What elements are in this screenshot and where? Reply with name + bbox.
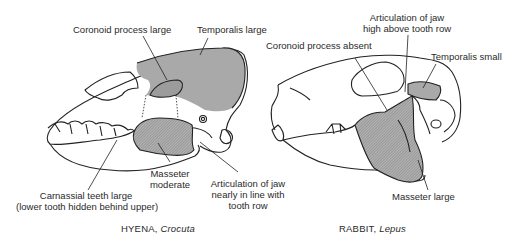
caption-rabbit-genus: Lepus	[379, 223, 406, 234]
label-hyena-articulation-line2: nearly in line with	[207, 189, 289, 200]
label-rabbit-temporalis: Temporalis small	[431, 51, 502, 62]
label-hyena-temporalis: Temporalis large	[197, 24, 267, 35]
label-hyena-coronoid: Coronoid process large	[73, 24, 171, 35]
label-hyena-carnassial-line1: Carnassial teeth large	[16, 190, 156, 201]
label-hyena-masseter-line2: moderate	[148, 179, 192, 190]
label-hyena-articulation-line3: tooth row	[207, 200, 289, 211]
label-hyena-articulation: Articulation of jaw nearly in line with …	[207, 178, 289, 211]
caption-rabbit: RABBIT, Lepus	[339, 223, 406, 234]
label-rabbit-coronoid: Coronoid process absent	[266, 40, 372, 51]
label-hyena-articulation-line1: Articulation of jaw	[207, 178, 289, 189]
hyena-skull	[47, 36, 248, 190]
label-hyena-carnassial: Carnassial teeth large (lower tooth hidd…	[16, 190, 156, 212]
label-hyena-carnassial-line2: (lower tooth hidden behind upper)	[16, 201, 156, 212]
label-hyena-masseter: Masseter moderate	[148, 168, 192, 190]
label-rabbit-masseter: Masseter large	[392, 191, 455, 202]
label-rabbit-articulation: Articulation of jaw high above tooth row	[362, 12, 452, 34]
caption-hyena: HYENA, Crocuta	[121, 223, 195, 234]
label-hyena-masseter-line1: Masseter	[148, 168, 192, 179]
caption-rabbit-name: RABBIT,	[339, 223, 376, 234]
label-rabbit-articulation-line1: Articulation of jaw	[362, 12, 452, 23]
label-rabbit-articulation-line2: high above tooth row	[362, 23, 452, 34]
caption-hyena-name: HYENA,	[121, 223, 158, 234]
caption-hyena-genus: Crocuta	[160, 223, 195, 234]
